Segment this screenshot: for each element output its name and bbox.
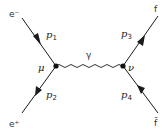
label-p2: p2	[46, 89, 57, 102]
label-antifermion: f̄	[154, 117, 158, 128]
vertex-right	[120, 63, 125, 68]
label-vertex-nu: ν	[128, 62, 134, 73]
feynman-diagram: e⁻ e⁺ f f̄ γ p1 p2 p3 p4 μ ν	[0, 0, 168, 133]
label-p3: p3	[121, 28, 132, 41]
label-photon: γ	[86, 50, 92, 60]
label-fermion: f	[154, 4, 158, 14]
label-positron: e⁺	[9, 119, 20, 129]
label-vertex-mu: μ	[38, 62, 45, 73]
vertex-left	[53, 63, 58, 68]
label-electron: e⁻	[9, 9, 20, 19]
label-p1: p1	[46, 29, 57, 42]
photon-propagator	[56, 65, 123, 68]
arrow-p4-icon	[137, 85, 145, 94]
label-p4: p4	[121, 89, 132, 102]
